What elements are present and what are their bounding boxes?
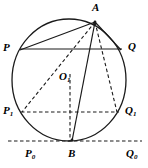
vertex-dot-b	[71, 139, 74, 142]
point-label-q-text: Q	[128, 40, 136, 52]
point-label-q0-text: Q	[126, 147, 134, 159]
point-label-b: B	[68, 148, 75, 159]
chord-A-Q1	[95, 22, 117, 112]
point-label-p0-text: P	[25, 147, 32, 159]
point-label-b-text: B	[68, 147, 75, 159]
point-label-q1: Q1	[125, 105, 136, 118]
point-label-o1-subscript: 1	[67, 76, 71, 84]
chord-A-P	[20, 22, 95, 50]
point-label-a: A	[92, 2, 99, 13]
point-label-p0-subscript: 0	[32, 153, 36, 161]
point-label-q1-subscript: 1	[133, 110, 137, 118]
point-label-o1-text: O	[59, 70, 67, 82]
geometry-canvas	[0, 0, 148, 168]
point-label-q0-subscript: 0	[134, 153, 138, 161]
point-label-p1: P1	[3, 105, 13, 118]
point-label-o1: O1	[59, 71, 70, 84]
chord-A-B	[72, 22, 95, 141]
point-label-p: P	[3, 42, 10, 53]
point-label-p0: P0	[25, 148, 35, 161]
point-label-q: Q	[128, 41, 136, 52]
point-label-p1-text: P	[3, 104, 10, 116]
point-label-a-text: A	[92, 1, 99, 13]
point-label-q0: Q0	[126, 148, 137, 161]
point-label-p1-subscript: 1	[10, 110, 14, 118]
point-label-q1-text: Q	[125, 104, 133, 116]
vertex-dot-a	[94, 21, 97, 24]
point-label-p-text: P	[3, 41, 10, 53]
geometry-figure: APQO1P1Q1BP0Q0	[0, 0, 148, 168]
